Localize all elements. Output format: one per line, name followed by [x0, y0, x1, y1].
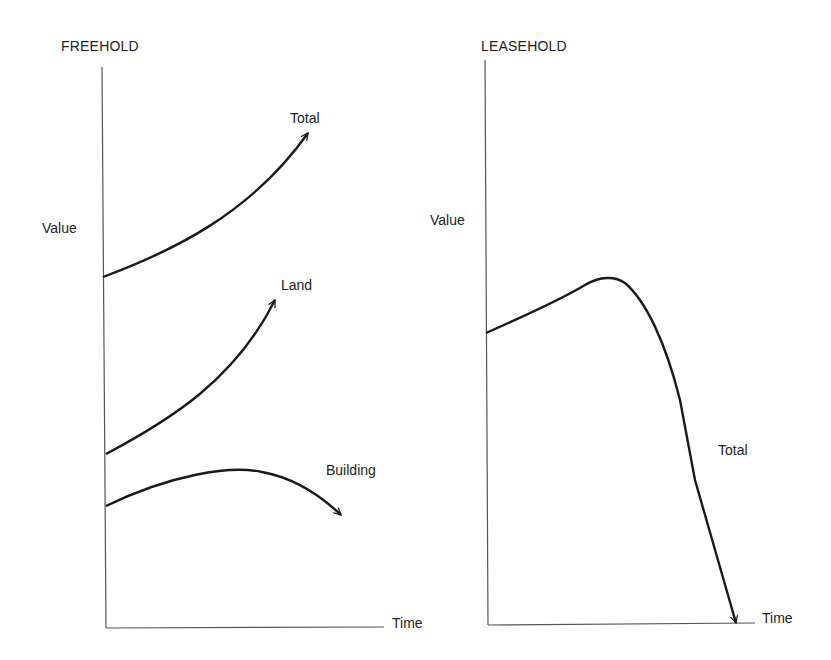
leasehold-y-axis — [485, 60, 488, 625]
freehold-building-curve — [106, 470, 341, 515]
charts-canvas — [0, 0, 831, 660]
freehold-y-axis — [102, 67, 106, 628]
freehold-x-axis — [106, 627, 384, 628]
leasehold-axes — [485, 60, 755, 625]
freehold-total-curve — [103, 133, 308, 277]
freehold-axes — [102, 67, 384, 628]
freehold-land-curve — [106, 300, 275, 454]
leasehold-total-curve — [486, 278, 736, 623]
leasehold-x-axis — [488, 623, 755, 625]
